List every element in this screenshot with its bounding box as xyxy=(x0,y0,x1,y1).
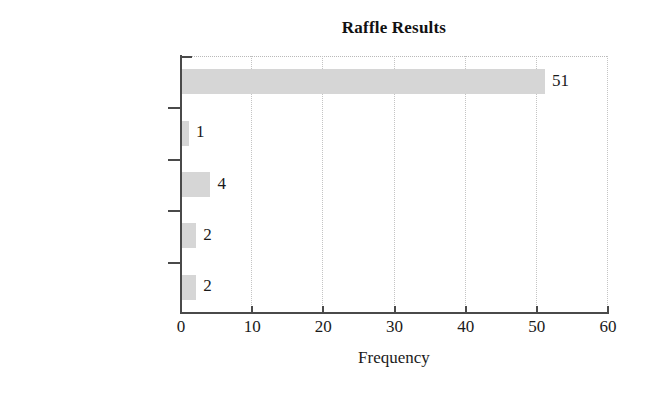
y-tick-4 xyxy=(168,262,182,264)
chart-title: Raffle Results xyxy=(180,18,608,38)
x-tick-label-30: 30 xyxy=(372,317,418,337)
x-tick-0 xyxy=(180,306,182,314)
x-tick-30 xyxy=(394,306,396,314)
chart-figure: Raffle Results 0102030405060 Frequency N… xyxy=(0,0,658,395)
gridline-40 xyxy=(465,56,466,313)
x-tick-label-60: 60 xyxy=(585,317,631,337)
y-tick-2 xyxy=(168,159,182,161)
y-tick-1 xyxy=(168,107,182,109)
gridline-60 xyxy=(607,56,608,313)
x-tick-10 xyxy=(251,306,253,314)
x-tick-label-20: 20 xyxy=(300,317,346,337)
x-tick-60 xyxy=(607,306,609,314)
gridline-50 xyxy=(536,56,537,313)
x-tick-50 xyxy=(536,306,538,314)
bar-value-label-2: 4 xyxy=(217,174,226,194)
x-tick-label-10: 10 xyxy=(229,317,275,337)
bar-value-label-3: 2 xyxy=(203,225,212,245)
plot-top-tick xyxy=(181,56,192,58)
x-tick-40 xyxy=(465,306,467,314)
x-tick-label-0: 0 xyxy=(158,317,204,337)
x-tick-label-50: 50 xyxy=(514,317,560,337)
gridline-20 xyxy=(322,56,323,313)
y-tick-3 xyxy=(168,210,182,212)
bar-value-label-0: 51 xyxy=(552,71,569,91)
gridline-30 xyxy=(394,56,395,313)
bar-value-label-4: 2 xyxy=(203,276,212,296)
bar-2[interactable] xyxy=(182,172,210,197)
bar-0[interactable] xyxy=(182,69,545,94)
bar-1[interactable] xyxy=(182,121,189,146)
x-tick-20 xyxy=(322,306,324,314)
gridline-10 xyxy=(251,56,252,313)
x-axis-title: Frequency xyxy=(180,348,608,368)
bar-3[interactable] xyxy=(182,223,196,248)
x-tick-label-40: 40 xyxy=(443,317,489,337)
bar-4[interactable] xyxy=(182,275,196,300)
bar-value-label-1: 1 xyxy=(196,122,205,142)
